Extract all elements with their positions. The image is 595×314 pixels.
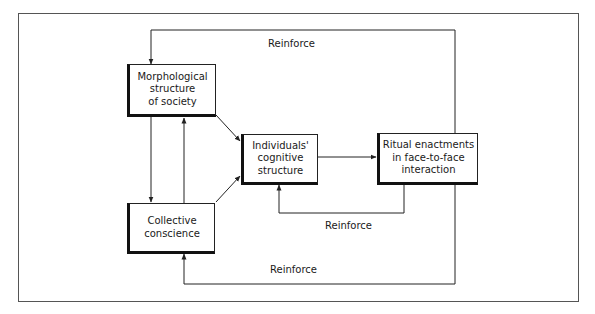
node-label: Collective conscience <box>144 215 200 240</box>
node-label: Morphological structure of society <box>137 71 207 109</box>
arrow-collective-to-individuals <box>216 176 240 202</box>
node-individuals-cognitive-structure: Individuals' cognitive structure <box>241 134 318 185</box>
node-morphological-structure: Morphological structure of society <box>127 64 216 117</box>
node-label: Individuals' cognitive structure <box>252 140 309 178</box>
node-label: Ritual enactments in face-to-face intera… <box>383 139 474 177</box>
arrow-ritual-to-collective <box>184 184 455 284</box>
middle-reinforce-label: Reinforce <box>325 220 372 232</box>
node-collective-conscience: Collective conscience <box>127 203 215 254</box>
node-ritual-enactments: Ritual enactments in face-to-face intera… <box>377 133 478 185</box>
arrow-ritual-to-individuals <box>279 184 404 213</box>
top-reinforce-label: Reinforce <box>268 38 315 50</box>
arrow-morph-to-individuals <box>216 115 240 141</box>
bottom-reinforce-label: Reinforce <box>270 264 317 276</box>
